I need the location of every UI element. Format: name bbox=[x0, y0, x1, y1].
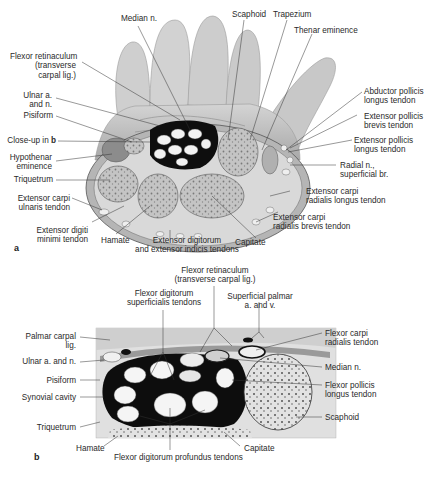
carpal-tunnel-closeup bbox=[96, 328, 336, 438]
label-apl-tendon: Abductor pollicis longus tendon bbox=[364, 87, 424, 106]
label-pisiform-b: Pisiform bbox=[10, 376, 76, 385]
label-hamate-b: Hamate bbox=[76, 444, 105, 453]
label-closeup-in-b: Close-up in b bbox=[2, 136, 56, 145]
panel-label-a: a bbox=[14, 243, 19, 253]
panel-label-b: b bbox=[34, 452, 40, 462]
label-median-n-b: Median n. bbox=[325, 363, 361, 372]
label-synovial-cavity: Synovial cavity bbox=[4, 393, 76, 402]
label-extensor-digitorum: Extensor digitorum and extensor indicis … bbox=[130, 236, 244, 255]
label-capitate-b: Capitate bbox=[244, 444, 275, 453]
label-palmar-carpal-lig: Palmar carpal lig. bbox=[10, 332, 76, 351]
label-scaphoid-b: Scaphoid bbox=[325, 413, 359, 422]
label-fds-tendons: Flexor digitorum superficialis tendons bbox=[124, 289, 204, 308]
label-thenar-eminence: Thenar eminence bbox=[294, 26, 358, 35]
label-trapezium: Trapezium bbox=[273, 10, 311, 19]
label-ecrl-tendon: Extensor carpi radialis longus tendon bbox=[306, 187, 386, 206]
label-fdp-tendons: Flexor digitorum profundus tendons bbox=[114, 453, 243, 462]
label-flexor-retinaculum-a: Flexor retinaculum (transverse carpal li… bbox=[10, 52, 76, 80]
label-radial-n-superficial: Radial n., superficial br. bbox=[340, 161, 388, 180]
label-flexor-retinaculum-b: Flexor retinaculum (transverse carpal li… bbox=[160, 266, 270, 285]
label-pisiform-a: Pisiform bbox=[10, 111, 53, 120]
label-median-n: Median n. bbox=[121, 14, 157, 23]
label-epb-tendon: Extensor pollicis brevis tendon bbox=[364, 112, 423, 131]
label-epl-tendon: Extensor pollicis longus tendon bbox=[354, 136, 413, 155]
label-ecrb-tendon: Extensor carpi radialis brevis tendon bbox=[273, 213, 350, 232]
label-triquetrum-b: Triquetrum bbox=[10, 423, 76, 432]
label-hamate-a: Hamate bbox=[101, 236, 130, 245]
label-ulnar-a-n-a: Ulnar a. and n. bbox=[10, 91, 52, 110]
label-fpl-tendon: Flexor pollicis longus tendon bbox=[325, 381, 376, 400]
label-hypothenar-eminence: Hypothenar eminence bbox=[2, 153, 52, 172]
label-capitate-a: Capitate bbox=[235, 238, 266, 247]
label-superficial-palmar-av: Superficial palmar a. and v. bbox=[224, 292, 296, 311]
label-triquetrum-a: Triquetrum bbox=[2, 175, 53, 184]
label-ulnar-a-n-b: Ulnar a. and n. bbox=[10, 357, 76, 366]
label-scaphoid-a: Scaphoid bbox=[232, 10, 266, 19]
label-fcr-tendon: Flexor carpi radialis tendon bbox=[325, 329, 378, 348]
label-edm-tendon: Extensor digiti minimi tendon bbox=[20, 226, 88, 245]
label-ecu-tendon: Extensor carpi ulnaris tendon bbox=[2, 194, 70, 213]
